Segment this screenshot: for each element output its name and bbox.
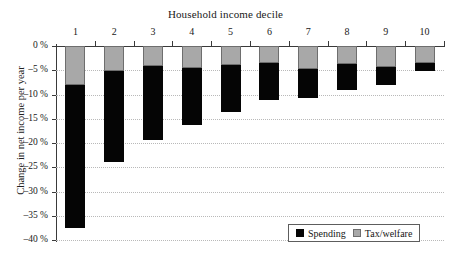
bar-segment-tax-welfare [259, 46, 279, 63]
x-axis-tick-label: 8 [332, 26, 362, 37]
bar-segment-spending [259, 63, 279, 100]
bar-segment-spending [104, 71, 124, 162]
y-axis-tick-label: –5 % [2, 64, 48, 74]
gridline [56, 167, 444, 168]
legend-label-tax-welfare: Tax/welfare [365, 228, 413, 239]
plot-area [56, 46, 444, 240]
y-axis-tick-label: –15 % [2, 113, 48, 123]
x-axis-tick-mark [444, 41, 445, 46]
gridline [56, 192, 444, 193]
bar-segment-spending [376, 67, 396, 84]
x-axis-tick-label: 1 [60, 26, 90, 37]
x-axis-tick-label: 4 [177, 26, 207, 37]
bar-segment-tax-welfare [182, 46, 202, 68]
bar-segment-tax-welfare [65, 46, 85, 85]
legend-swatch-spending-icon [296, 229, 304, 237]
legend-label-spending: Spending [308, 228, 346, 239]
bar-segment-spending [182, 68, 202, 125]
gridline [56, 216, 444, 217]
x-axis-tick-label: 5 [216, 26, 246, 37]
bar-segment-spending [221, 65, 241, 112]
legend-item-spending: Spending [296, 228, 346, 239]
bar-segment-tax-welfare [337, 46, 357, 64]
bar-segment-tax-welfare [221, 46, 241, 65]
y-axis-tick-label: –40 % [2, 234, 48, 244]
x-axis-tick-label: 9 [371, 26, 401, 37]
y-axis-tick-label: –30 % [2, 186, 48, 196]
bar-segment-spending [337, 64, 357, 89]
y-axis-tick-label: –25 % [2, 161, 48, 171]
bar-segment-tax-welfare [143, 46, 163, 66]
y-axis-tick-label: 0 % [2, 40, 48, 50]
x-axis-tick-label: 3 [138, 26, 168, 37]
bar-segment-tax-welfare [376, 46, 396, 67]
y-axis-tick-label: –35 % [2, 210, 48, 220]
legend-swatch-tax-welfare-icon [353, 229, 361, 237]
bar-segment-spending [298, 69, 318, 99]
bar-segment-spending [143, 66, 163, 139]
x-axis-tick-label: 7 [293, 26, 323, 37]
bar-segment-spending [415, 63, 435, 71]
y-axis-tick-label: –10 % [2, 89, 48, 99]
chart-title: Household income decile [0, 8, 451, 20]
bar-segment-tax-welfare [415, 46, 435, 63]
legend-item-tax-welfare: Tax/welfare [353, 228, 413, 239]
chart-legend: Spending Tax/welfare [288, 224, 420, 242]
x-axis-tick-label: 10 [410, 26, 440, 37]
x-axis-tick-label: 6 [254, 26, 284, 37]
x-axis-tick-label: 2 [99, 26, 129, 37]
bar-segment-tax-welfare [298, 46, 318, 69]
bar-segment-tax-welfare [104, 46, 124, 71]
bar-segment-spending [65, 85, 85, 228]
y-axis-tick-label: –20 % [2, 137, 48, 147]
chart-container: Household income decile Change in net in… [0, 0, 451, 261]
